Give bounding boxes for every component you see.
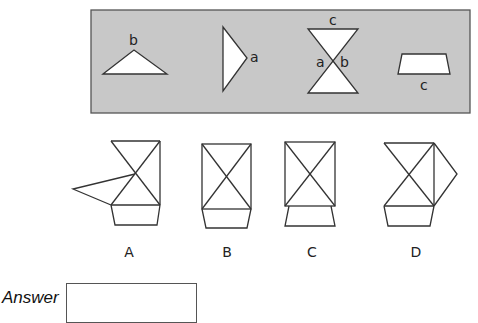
option-c-label: C (307, 244, 317, 260)
option-a-figure[interactable]: A (73, 141, 160, 260)
edge-label-a: a (250, 49, 259, 65)
option-d-label: D (411, 244, 422, 260)
edge-label-c: c (329, 12, 337, 28)
answer-input[interactable] (66, 283, 197, 323)
option-a-label: A (124, 244, 134, 260)
pieces-panel: b a c a b c (91, 10, 470, 113)
option-d-figure[interactable]: D (384, 143, 457, 260)
option-c-figure[interactable]: C (285, 142, 335, 260)
option-b-label: B (222, 244, 232, 260)
edge-label-a: a (316, 54, 325, 70)
edge-label-c: c (420, 77, 428, 93)
option-b-figure[interactable]: B (202, 144, 251, 260)
edge-label-b: b (129, 32, 138, 48)
edge-label-b: b (340, 54, 349, 70)
answer-label: Answer (2, 288, 59, 308)
